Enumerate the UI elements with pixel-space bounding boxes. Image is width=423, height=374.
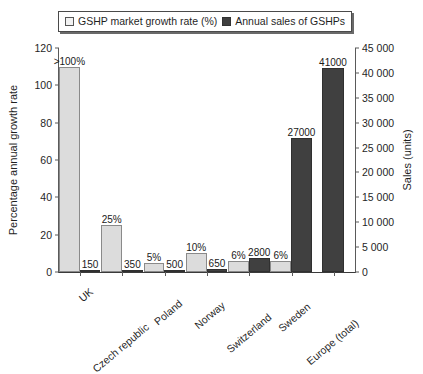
bar-annual-sales[interactable]: 41000 [322, 68, 344, 272]
bar-growth-rate[interactable]: >100% [59, 67, 80, 272]
bar-group: 41000 [313, 48, 355, 272]
y-axis-right-title-text: Sales (units) [401, 129, 413, 190]
y-axis-left-tick: 40 [40, 191, 59, 203]
bar-growth-rate[interactable]: 25% [101, 225, 122, 272]
bar-annual-sales[interactable]: 27000 [291, 138, 312, 272]
bar-label-growth-rate: 10% [186, 242, 206, 253]
bar-annual-sales[interactable]: 350 [122, 270, 143, 272]
y-axis-left-tick: 60 [40, 154, 59, 166]
bar-annual-sales[interactable]: 500 [164, 270, 185, 272]
y-axis-left-tick: 80 [40, 117, 59, 129]
y-axis-right-tick: 10 000 [355, 216, 394, 228]
legend-label-sales: Annual sales of GSHPs [235, 16, 345, 27]
bar-growth-rate[interactable]: 5% [144, 263, 165, 272]
x-axis-category-label: Switzerland [224, 311, 273, 355]
y-axis-right-tick: 45 000 [355, 42, 394, 54]
bar-label-annual-sales: 27000 [288, 127, 316, 138]
chart-legend: GSHP market growth rate (%) Annual sales… [58, 11, 352, 32]
y-axis-right-tick: 0 [355, 266, 368, 278]
y-axis-right-tick: 40 000 [355, 67, 394, 79]
bar-label-annual-sales: 150 [82, 259, 99, 270]
y-axis-right-tick: 25 000 [355, 142, 394, 154]
bar-group: >100%150 [59, 48, 101, 272]
bar-growth-rate[interactable]: 6% [270, 261, 291, 272]
y-axis-right-tick: 15 000 [355, 191, 394, 203]
bar-label-growth-rate: >100% [54, 56, 85, 67]
bar-annual-sales[interactable]: 650 [207, 269, 228, 272]
legend-entry-sales: Annual sales of GSHPs [222, 16, 345, 27]
bar-label-growth-rate: 5% [147, 252, 161, 263]
bar-group: 25%350 [101, 48, 143, 272]
bar-label-growth-rate: 25% [102, 214, 122, 225]
bar-growth-rate[interactable]: 10% [186, 253, 207, 272]
x-axis-category-label: UK [76, 285, 95, 304]
bar-growth-rate[interactable]: 6% [228, 261, 249, 272]
bar-annual-sales[interactable]: 2800 [249, 258, 270, 272]
y-axis-right-tick: 35 000 [355, 92, 394, 104]
x-axis-category-label: Norway [192, 299, 227, 331]
bar-label-annual-sales: 500 [166, 259, 183, 270]
y-axis-left-title: Percentage annual growth rate [6, 48, 20, 272]
legend-label-growth: GSHP market growth rate (%) [78, 16, 217, 27]
bar-label-annual-sales: 350 [124, 259, 141, 270]
x-axis-category-label: Poland [151, 297, 184, 327]
y-axis-right-tick: 30 000 [355, 117, 394, 129]
bar-label-annual-sales: 41000 [319, 57, 347, 68]
light-square-icon [65, 17, 74, 26]
x-axis-category-label: Sweden [275, 300, 312, 334]
y-axis-left-tick: 100 [34, 79, 59, 91]
x-axis-category-label: Europe (total) [304, 317, 360, 367]
y-axis-right-tick: 5 000 [355, 241, 388, 253]
bar-group: 6%2800 [228, 48, 270, 272]
x-axis-labels: UKCzech republicPolandNorwaySwitzerlandS… [58, 276, 354, 346]
y-axis-left-tick: 20 [40, 229, 59, 241]
bar-annual-sales[interactable]: 150 [80, 270, 101, 272]
plot-area: 02040608010012005 00010 00015 00020 0002… [58, 48, 356, 273]
dark-square-icon [222, 17, 231, 26]
y-axis-left-tick: 120 [34, 42, 59, 54]
x-axis-category-label: Czech republic [90, 321, 151, 374]
legend-entry-growth: GSHP market growth rate (%) [65, 16, 217, 27]
y-axis-right-tick: 20 000 [355, 166, 394, 178]
plot-inner: 02040608010012005 00010 00015 00020 0002… [59, 48, 355, 272]
bar-label-growth-rate: 6% [274, 250, 288, 261]
y-axis-right-title: Sales (units) [400, 48, 414, 272]
bar-group: 10%650 [186, 48, 228, 272]
bar-group: 6%27000 [270, 48, 312, 272]
y-axis-left-title-text: Percentage annual growth rate [7, 85, 19, 235]
bar-label-annual-sales: 650 [209, 258, 226, 269]
bar-group: 5%500 [144, 48, 186, 272]
bar-label-annual-sales: 2800 [248, 247, 270, 258]
bar-label-growth-rate: 6% [231, 250, 245, 261]
